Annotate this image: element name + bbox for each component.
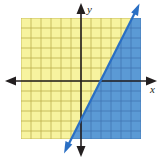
boundary-line-lower-arrowhead: [64, 141, 72, 154]
y-axis-label: y: [86, 3, 92, 15]
x-axis-left-arrowhead: [5, 77, 16, 86]
x-axis-label: x: [149, 83, 155, 95]
inequality-graph-figure: y x: [0, 0, 161, 158]
boundary-line-upper-arrowhead: [131, 4, 139, 17]
y-axis-up-arrowhead: [77, 3, 86, 14]
y-axis-down-arrowhead: [77, 146, 86, 157]
coordinate-plane-svg: y x: [0, 0, 161, 158]
